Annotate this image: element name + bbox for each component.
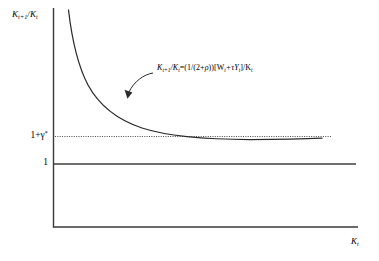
eq-plus-tau: +τY [226, 63, 239, 72]
y-axis-label-divider: /K [27, 9, 36, 19]
economic-growth-chart: Kt+1/Kt Kt 1+γ* 1 Kt+1/Kt=(1/(2+ρ))[Wt+τ… [0, 0, 379, 261]
y-tick-label-asymptote: 1+γ* [2, 129, 48, 140]
curve-equation-annotation: Kt+1/Kt=(1/(2+ρ))[Wt+τYt]/Kt [157, 63, 253, 73]
y-axis-label: Kt+1/Kt [12, 9, 38, 20]
y-tick-asymptote-text: 1+γ [30, 130, 44, 140]
x-axis-label-subscript: t [357, 241, 359, 247]
annotation-arrow-head [125, 90, 133, 99]
y-axis-label-subscript: t+1 [18, 14, 27, 20]
eq-operator: =(1/(2+ [180, 63, 205, 72]
eq-k-subscript: t [251, 67, 253, 73]
annotation-arrow [129, 73, 154, 93]
eq-bracket-close: ]/K [240, 63, 251, 72]
eq-lhs-divider: /K [170, 63, 178, 72]
x-axis-label: Kt [351, 236, 359, 247]
y-tick-label-unity: 1 [2, 157, 48, 167]
plot-canvas [0, 0, 379, 261]
y-axis-label-subscript2: t [36, 14, 38, 20]
y-tick-asymptote-star: * [45, 129, 48, 136]
growth-rate-curve [69, 10, 323, 140]
eq-bracket-open: ))[W [209, 63, 225, 72]
